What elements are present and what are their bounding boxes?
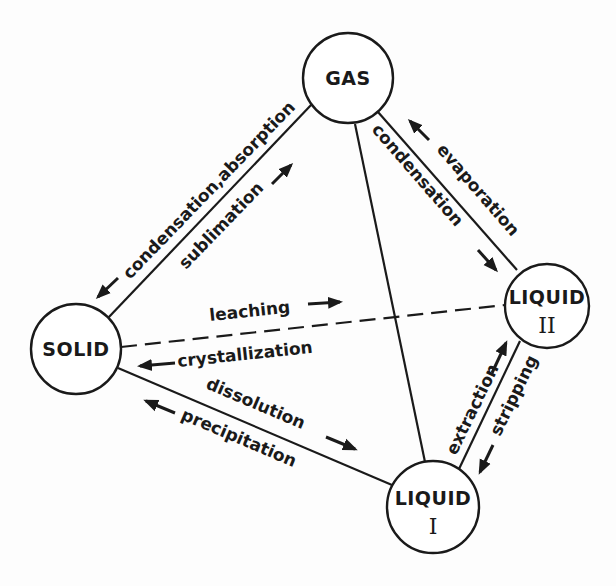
node-liquid2: LIQUID II <box>505 264 589 348</box>
arrow-to-liquid2-condensation-icon <box>478 250 496 270</box>
phase-diagram: GAS SOLID LIQUID I LIQUID II condensatio… <box>0 0 616 586</box>
arrow-to-liquid2-leaching-icon <box>308 302 340 304</box>
arrow-to-solid-crystallization-icon <box>140 363 175 366</box>
edge-solid-liquid2-dashed <box>121 305 505 347</box>
label-condensation-absorption: condensation,absorption <box>118 97 299 283</box>
arrow-to-solid-precipitation-icon <box>146 401 175 413</box>
node-liquid1: LIQUID I <box>387 461 479 553</box>
edge-gas-solid <box>108 104 312 318</box>
arrow-to-liquid1-stripping-icon <box>480 445 493 472</box>
arrow-to-solid-icon <box>98 278 118 297</box>
arrow-to-liquid1-dissolution-icon <box>326 437 355 449</box>
node-liquid1-sub: I <box>429 514 438 539</box>
edge-solid-liquid1 <box>118 368 392 485</box>
node-gas: GAS <box>303 33 393 123</box>
node-solid-label: SOLID <box>42 338 109 360</box>
node-gas-label: GAS <box>325 67 370 89</box>
node-liquid2-sub: II <box>538 313 555 338</box>
arrow-to-gas-sublimation-icon <box>272 165 291 184</box>
node-liquid2-label: LIQUID <box>509 286 586 308</box>
node-solid: SOLID <box>31 304 121 394</box>
arrow-to-gas-evaporation-icon <box>410 121 429 140</box>
label-leaching: leaching <box>208 297 291 325</box>
node-liquid1-label: LIQUID <box>395 487 472 509</box>
edge-gas-liquid2 <box>378 112 517 270</box>
label-crystallization: crystallization <box>176 337 313 371</box>
